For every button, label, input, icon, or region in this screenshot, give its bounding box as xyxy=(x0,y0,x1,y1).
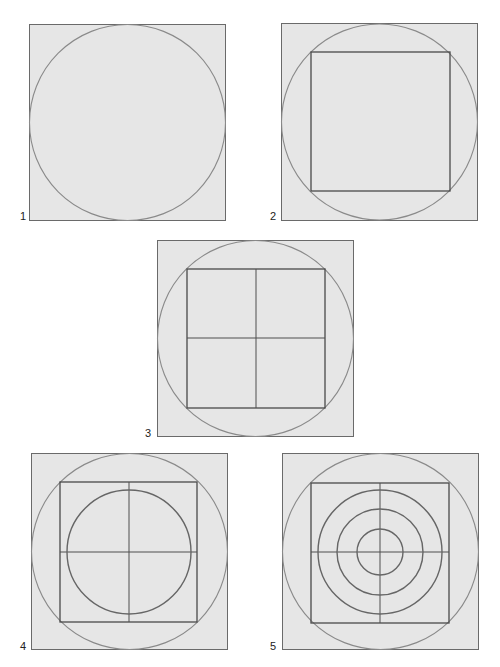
panel-5-label: 5 xyxy=(270,641,276,652)
panel-1-label: 1 xyxy=(20,211,26,222)
panel-5 xyxy=(283,454,479,650)
panel-2 xyxy=(282,24,478,221)
panel-3 xyxy=(158,241,354,437)
panel-4 xyxy=(32,454,228,650)
panel-3-label: 3 xyxy=(145,428,151,439)
panel-4-label: 4 xyxy=(20,641,26,652)
panel-2-label: 2 xyxy=(270,211,276,222)
panel-1-square xyxy=(30,25,226,221)
panel-1 xyxy=(30,25,226,221)
